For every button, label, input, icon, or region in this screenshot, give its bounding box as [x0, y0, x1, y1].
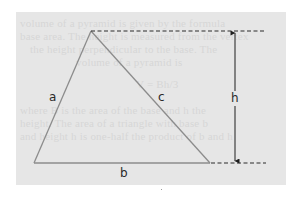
- scan-speck: [161, 189, 162, 190]
- label-side-b: b: [120, 167, 128, 179]
- label-side-a: a: [49, 91, 56, 103]
- side-c-line: [91, 31, 210, 163]
- label-side-c: c: [158, 91, 165, 103]
- triangle-diagram: [0, 0, 302, 197]
- label-height-h: h: [231, 92, 239, 104]
- side-a-line: [34, 31, 91, 163]
